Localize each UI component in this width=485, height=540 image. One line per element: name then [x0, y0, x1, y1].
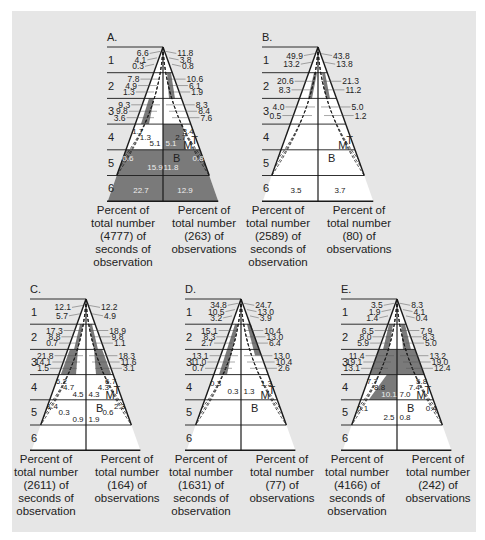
- value-label: 3.7: [334, 186, 346, 195]
- value-label: 7.6: [200, 113, 212, 123]
- value-label: 0.7: [192, 363, 204, 373]
- zone-label: 5: [186, 406, 192, 418]
- zone-label: 4: [342, 381, 348, 393]
- caption-line: observation: [161, 505, 241, 518]
- value-label: 10.1: [381, 390, 397, 399]
- caption-line: Percent of: [161, 453, 241, 466]
- value-label: 2.5: [383, 413, 395, 422]
- zone-label: 2: [31, 331, 37, 343]
- caption-line: Percent of: [88, 453, 166, 466]
- leader-line: [301, 62, 312, 64]
- caption: Percent oftotal number(4166) ofseconds o…: [317, 453, 397, 518]
- curve-label-m: M: [261, 389, 270, 401]
- value-label: 1.3: [123, 87, 135, 97]
- zone-label: 1: [186, 306, 192, 318]
- caption: Percent oftotal number(164) ofobservatio…: [88, 453, 166, 505]
- curve-label-b: B: [96, 402, 103, 414]
- curve-label-m: M: [183, 139, 192, 151]
- caption-line: observation: [238, 256, 318, 269]
- zone-label: 4: [186, 381, 192, 393]
- zone-label: 1: [263, 54, 269, 66]
- caption-line: seconds of: [317, 492, 397, 505]
- value-label: 5.9: [357, 338, 369, 348]
- caption-line: (4777) of: [83, 230, 163, 243]
- caption-line: total number: [165, 217, 243, 230]
- zone-label: 2: [342, 331, 348, 343]
- diagram-b: B.12345649.913.220.68.34.00.53.543.813.8…: [262, 31, 373, 201]
- leader-line: [321, 54, 332, 56]
- caption-line: (2589) of: [238, 230, 318, 243]
- caption-line: (1631) of: [161, 479, 241, 492]
- diagram-c: C.12345612.15.717.38.80.721.814.11.56.24…: [30, 283, 140, 450]
- leader-line: [381, 310, 391, 312]
- value-label: 0.7: [46, 338, 58, 348]
- zone-label: 3: [263, 105, 269, 117]
- caption-line: seconds of: [83, 243, 163, 256]
- value-label: 13.2: [283, 59, 300, 69]
- value-label: 13.8: [336, 59, 353, 69]
- caption-line: (263) of: [165, 230, 243, 243]
- leader-line: [145, 64, 154, 66]
- value-label: 0.3: [210, 379, 222, 388]
- caption-line: Percent of: [83, 204, 163, 217]
- value-label: 22.7: [133, 186, 149, 195]
- leader-line: [223, 316, 232, 318]
- value-label: 15.9: [147, 163, 163, 172]
- caption-line: total number: [83, 217, 163, 230]
- value-label: 3.9: [260, 313, 272, 323]
- caption-line: (4166) of: [317, 479, 397, 492]
- value-label: 4.9: [104, 311, 116, 321]
- value-label: 3.1: [123, 363, 135, 373]
- value-label: 1.4: [47, 402, 59, 411]
- leader-line: [147, 58, 157, 60]
- value-label: 2.6: [278, 363, 290, 373]
- value-label: 0.6: [102, 408, 114, 417]
- curve-label-m: M: [106, 389, 115, 401]
- value-label: 3.5: [290, 186, 302, 195]
- zone-label: 6: [263, 182, 269, 194]
- zone-label: 6: [31, 432, 37, 444]
- diagram-a: A.1234566.64.10.37.84.91.39.39.83.61.71.…: [107, 31, 218, 201]
- panel-label: A.: [107, 31, 117, 43]
- caption-line: total number: [6, 466, 86, 479]
- value-label: 1.9: [191, 87, 203, 97]
- leader-line: [69, 314, 80, 316]
- caption-line: (242) of: [399, 479, 477, 492]
- zone-label: 5: [31, 406, 37, 418]
- caption-line: total number: [88, 466, 166, 479]
- caption-line: total number: [238, 217, 318, 230]
- zone-label: 5: [108, 157, 114, 169]
- curve-label-b: B: [328, 152, 335, 164]
- zone-label: 2: [263, 80, 269, 92]
- leader-line: [92, 314, 103, 316]
- caption-line: observations: [243, 492, 321, 505]
- value-label: 5.1: [165, 139, 177, 148]
- caption-line: total number: [161, 466, 241, 479]
- value-label: 0.6: [122, 154, 134, 163]
- leader-line: [379, 316, 388, 318]
- panel-label: C.: [30, 283, 41, 295]
- caption-line: total number: [243, 466, 321, 479]
- value-label: 11.8: [164, 163, 180, 172]
- value-label: 0.5: [269, 111, 281, 121]
- leader-line: [228, 303, 238, 305]
- caption-line: Percent of: [238, 204, 318, 217]
- value-label: 0.3: [132, 61, 144, 71]
- zone-label: 4: [108, 131, 114, 143]
- value-label: 3.6: [114, 113, 126, 123]
- caption-line: observation: [317, 505, 397, 518]
- value-label: 1.5: [37, 363, 49, 373]
- leader-line: [384, 303, 394, 305]
- value-label: 2.7: [201, 338, 213, 348]
- value-label: 1.9: [88, 415, 100, 424]
- caption-line: observations: [165, 243, 243, 256]
- zone-label: 6: [108, 182, 114, 194]
- leader-line: [304, 54, 315, 56]
- caption-line: Percent of: [243, 453, 321, 466]
- zone-label: 5: [342, 406, 348, 418]
- value-label: 0.1: [357, 404, 369, 413]
- value-label: 12.9: [177, 186, 193, 195]
- value-label: 7.0: [399, 390, 411, 399]
- caption-line: Percent of: [399, 453, 477, 466]
- caption-line: observation: [6, 505, 86, 518]
